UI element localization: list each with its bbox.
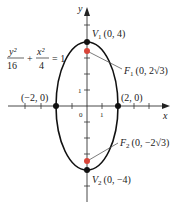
vertex-v1-point: [84, 39, 90, 45]
left-covertex-point: [53, 103, 59, 109]
ellipse-diagram: y² 16 + x² 4 = 1 y x 0 1 1 V1(0, 4) F1(0…: [0, 0, 189, 204]
vertex-v2-point: [84, 167, 90, 173]
right-covertex-label: (2, 0): [121, 92, 143, 104]
f2-label: F2(0, −2√3): [119, 137, 169, 150]
x-tick-label-1: 1: [100, 111, 104, 119]
equation-denominator-2: 4: [39, 60, 44, 71]
f1-label: F1(0, 2√3): [123, 65, 168, 78]
equation-denominator-1: 16: [7, 60, 17, 71]
x-axis-label: x: [162, 110, 168, 121]
y-axis-label: y: [77, 3, 83, 14]
equation-rhs: = 1: [52, 53, 65, 64]
y-axis-arrow-icon: [84, 7, 90, 16]
v2-label: V2(0, −4): [92, 174, 131, 187]
f2-leader-line: [89, 143, 118, 160]
equation-numerator-2: x²: [36, 46, 45, 57]
y-tick-label-1: 1: [78, 87, 82, 95]
left-covertex-label: (−2, 0): [21, 92, 48, 104]
focus-f2-point: [84, 158, 90, 164]
right-covertex-point: [115, 103, 121, 109]
focus-f1-point: [84, 48, 90, 54]
equation-numerator-1: y²: [8, 46, 17, 57]
v1-label: V1(0, 4): [92, 28, 125, 41]
ellipse-equation: y² 16 + x² 4 = 1: [7, 46, 65, 71]
x-axis-arrow-icon: [162, 103, 170, 109]
equation-plus: +: [27, 53, 33, 64]
origin-label: 0: [79, 111, 83, 119]
